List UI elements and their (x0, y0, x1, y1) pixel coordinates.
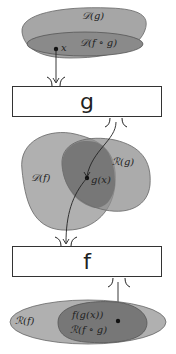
range-fog-set (58, 302, 147, 343)
label-domain-g: 𝒟(g) (82, 10, 104, 22)
function-g-box: g (12, 86, 162, 117)
point-fgx (116, 319, 120, 323)
label-gx: g(x) (91, 174, 111, 185)
label-range-fog: ℛ(f ∘ g) (70, 324, 107, 335)
function-f-label: f (83, 249, 91, 274)
label-range-f: ℛ(f) (15, 315, 35, 326)
function-g-label: g (80, 89, 94, 114)
label-fgx: f(g(x)) (72, 309, 103, 320)
function-f-box: f (12, 246, 162, 277)
label-domain-f: 𝒟(f) (31, 172, 51, 184)
output-funnel-f (108, 278, 130, 287)
label-domain-fog: 𝒟(f ∘ g) (80, 37, 117, 49)
label-x: x (61, 42, 67, 53)
diagram-canvas (0, 0, 176, 354)
label-range-g: ℛ(g) (112, 156, 134, 167)
